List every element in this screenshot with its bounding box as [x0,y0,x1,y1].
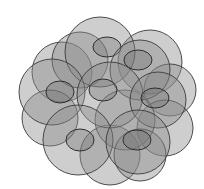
inner-circle [46,81,74,103]
inner-circle [123,130,151,150]
inner-circle [66,129,94,151]
coverage-circle-group [106,110,170,174]
inner-circle [89,79,117,101]
coverage-circle-group [43,105,113,175]
overlapping-circles-diagram [0,0,204,189]
inner-circle [141,88,169,108]
